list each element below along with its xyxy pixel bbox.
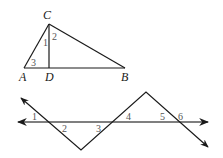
angle-label-t3: 3 [96, 123, 101, 134]
angle-label-t4: 4 [126, 111, 131, 122]
angle-label-3: 3 [31, 57, 36, 68]
angle-label-1: 1 [43, 37, 48, 48]
angle-label-t2: 2 [62, 123, 67, 134]
angle-label-t5: 5 [160, 111, 165, 122]
vertex-label-c: C [43, 8, 52, 22]
angle-label-t1: 1 [32, 111, 37, 122]
vertex-label-b: B [121, 70, 129, 84]
angle-label-2: 2 [52, 31, 57, 42]
angle-label-t6: 6 [178, 111, 183, 122]
side-cb [49, 24, 125, 68]
triangle-abc: C A D B 1 2 3 [18, 8, 129, 84]
geometry-diagram: C A D B 1 2 3 1 2 3 4 5 6 [0, 0, 223, 158]
transversal-figure: 1 2 3 4 5 6 [18, 92, 208, 150]
vertex-label-a: A [18, 70, 27, 84]
vertex-label-d: D [44, 70, 54, 84]
